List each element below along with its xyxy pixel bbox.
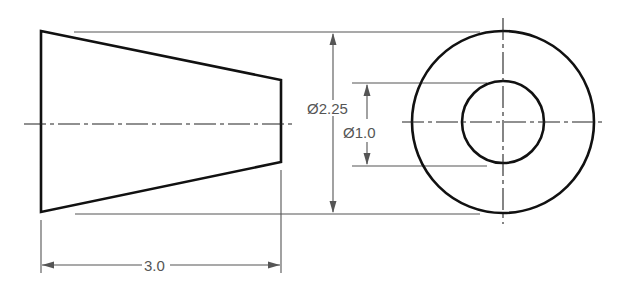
inner-diameter-dimension: Ø1.0 [343, 84, 376, 165]
frustum-outline [41, 31, 281, 212]
outer-diameter-label: Ø2.25 [307, 100, 348, 117]
inner-diameter-label: Ø1.0 [343, 124, 376, 141]
front-view [24, 31, 296, 212]
side-view [402, 18, 604, 224]
outer-diameter-extension-lines [74, 32, 480, 214]
technical-drawing: Ø2.25 Ø1.0 3.0 [0, 0, 633, 292]
length-label: 3.0 [144, 257, 165, 274]
arrowhead-up-icon [330, 33, 337, 45]
outer-diameter-dimension: Ø2.25 [307, 33, 348, 213]
arrowhead-down-icon [330, 201, 337, 213]
arrowhead-left-icon [42, 262, 54, 269]
arrowhead-up-icon [364, 84, 371, 96]
arrowhead-right-icon [268, 262, 280, 269]
arrowhead-down-icon [364, 153, 371, 165]
length-dimension: 3.0 [41, 170, 281, 274]
